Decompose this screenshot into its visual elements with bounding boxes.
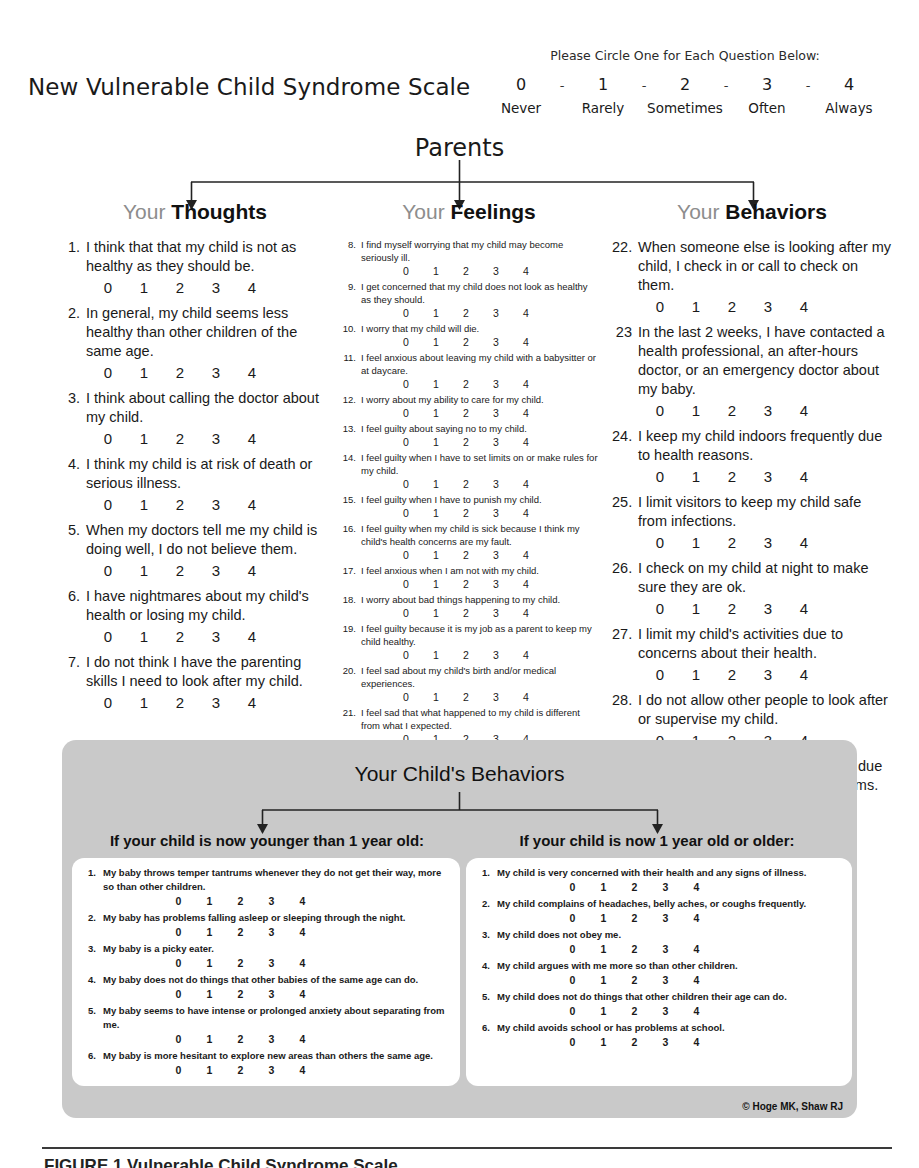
scale-option-2[interactable]: 2 [451, 691, 481, 703]
scale-option-0[interactable]: 0 [642, 600, 678, 617]
scale-option-0[interactable]: 0 [557, 1036, 588, 1048]
scale-option-2[interactable]: 2 [714, 666, 750, 683]
scale-option-4[interactable]: 4 [234, 496, 270, 513]
scale-option-0[interactable]: 0 [391, 407, 421, 419]
scale-option-4[interactable]: 4 [287, 1064, 318, 1076]
scale-option-1[interactable]: 1 [588, 1036, 619, 1048]
scale-option-0[interactable]: 0 [163, 957, 194, 969]
scale-option-0[interactable]: 0 [90, 562, 126, 579]
scale-option-4[interactable]: 4 [511, 549, 541, 561]
scale-option-4[interactable]: 4 [511, 578, 541, 590]
scale-option-3[interactable]: 3 [650, 1005, 681, 1017]
scale-option-4[interactable]: 4 [681, 912, 712, 924]
scale-option-1[interactable]: 1 [194, 926, 225, 938]
scale-option-3[interactable]: 3 [650, 1036, 681, 1048]
scale-option-0[interactable]: 0 [163, 988, 194, 1000]
scale-option-4[interactable]: 4 [511, 607, 541, 619]
scale-option-1[interactable]: 1 [194, 1033, 225, 1045]
scale-option-2[interactable]: 2 [619, 912, 650, 924]
scale-option-3[interactable]: 3 [750, 534, 786, 551]
scale-option-4[interactable]: 4 [511, 507, 541, 519]
scale-option-3[interactable]: 3 [481, 265, 511, 277]
scale-option-0[interactable]: 0 [391, 378, 421, 390]
scale-option-3[interactable]: 3 [750, 468, 786, 485]
scale-option-3[interactable]: 3 [256, 895, 287, 907]
scale-option-4[interactable]: 4 [234, 628, 270, 645]
scale-option-2[interactable]: 2 [451, 307, 481, 319]
scale-option-1[interactable]: 1 [421, 336, 451, 348]
scale-option-3[interactable]: 3 [198, 562, 234, 579]
scale-option-4[interactable]: 4 [511, 649, 541, 661]
scale-option-3[interactable]: 3 [481, 691, 511, 703]
scale-option-3[interactable]: 3 [198, 628, 234, 645]
scale-option-4[interactable]: 4 [511, 307, 541, 319]
scale-option-4[interactable]: 4 [681, 1036, 712, 1048]
scale-option-4[interactable]: 4 [786, 298, 822, 315]
scale-option-2[interactable]: 2 [451, 649, 481, 661]
scale-option-0[interactable]: 0 [391, 478, 421, 490]
scale-option-4[interactable]: 4 [511, 691, 541, 703]
scale-option-4[interactable]: 4 [287, 1033, 318, 1045]
scale-option-3[interactable]: 3 [256, 957, 287, 969]
scale-option-1[interactable]: 1 [194, 957, 225, 969]
scale-option-3[interactable]: 3 [750, 298, 786, 315]
scale-option-1[interactable]: 1 [421, 307, 451, 319]
scale-option-3[interactable]: 3 [481, 378, 511, 390]
scale-option-3[interactable]: 3 [650, 943, 681, 955]
scale-option-0[interactable]: 0 [90, 430, 126, 447]
scale-option-4[interactable]: 4 [681, 974, 712, 986]
scale-option-1[interactable]: 1 [421, 407, 451, 419]
scale-option-2[interactable]: 2 [619, 1036, 650, 1048]
scale-option-1[interactable]: 1 [421, 378, 451, 390]
scale-option-1[interactable]: 1 [126, 694, 162, 711]
scale-option-0[interactable]: 0 [90, 628, 126, 645]
scale-option-1[interactable]: 1 [678, 600, 714, 617]
scale-option-0[interactable]: 0 [163, 926, 194, 938]
scale-option-2[interactable]: 2 [619, 943, 650, 955]
scale-option-1[interactable]: 1 [126, 364, 162, 381]
scale-option-4[interactable]: 4 [287, 957, 318, 969]
scale-option-4[interactable]: 4 [234, 364, 270, 381]
scale-option-4[interactable]: 4 [234, 430, 270, 447]
scale-option-0[interactable]: 0 [642, 468, 678, 485]
scale-option-2[interactable]: 2 [714, 402, 750, 419]
scale-option-2[interactable]: 2 [162, 279, 198, 296]
scale-option-4[interactable]: 4 [511, 336, 541, 348]
scale-option-1[interactable]: 1 [126, 279, 162, 296]
scale-option-1[interactable]: 1 [421, 578, 451, 590]
scale-option-1[interactable]: 1 [678, 468, 714, 485]
scale-option-4[interactable]: 4 [234, 279, 270, 296]
scale-option-1[interactable]: 1 [588, 1005, 619, 1017]
scale-option-4[interactable]: 4 [786, 600, 822, 617]
scale-option-3[interactable]: 3 [481, 436, 511, 448]
scale-option-0[interactable]: 0 [391, 691, 421, 703]
scale-option-0[interactable]: 0 [642, 666, 678, 683]
scale-option-2[interactable]: 2 [451, 578, 481, 590]
scale-option-3[interactable]: 3 [256, 1064, 287, 1076]
scale-option-4[interactable]: 4 [786, 534, 822, 551]
scale-option-1[interactable]: 1 [588, 912, 619, 924]
scale-option-2[interactable]: 2 [714, 468, 750, 485]
scale-option-3[interactable]: 3 [256, 926, 287, 938]
scale-option-2[interactable]: 2 [714, 298, 750, 315]
scale-option-2[interactable]: 2 [619, 1005, 650, 1017]
scale-option-4[interactable]: 4 [287, 988, 318, 1000]
scale-option-3[interactable]: 3 [750, 402, 786, 419]
scale-option-4[interactable]: 4 [511, 478, 541, 490]
scale-option-3[interactable]: 3 [198, 694, 234, 711]
scale-option-1[interactable]: 1 [421, 478, 451, 490]
scale-option-3[interactable]: 3 [481, 336, 511, 348]
scale-option-1[interactable]: 1 [126, 562, 162, 579]
scale-option-1[interactable]: 1 [421, 265, 451, 277]
scale-option-3[interactable]: 3 [481, 407, 511, 419]
scale-option-3[interactable]: 3 [650, 974, 681, 986]
scale-option-1[interactable]: 1 [421, 436, 451, 448]
scale-option-2[interactable]: 2 [451, 436, 481, 448]
scale-option-0[interactable]: 0 [391, 336, 421, 348]
scale-option-0[interactable]: 0 [391, 507, 421, 519]
scale-option-0[interactable]: 0 [163, 1064, 194, 1076]
scale-option-2[interactable]: 2 [451, 507, 481, 519]
scale-option-2[interactable]: 2 [451, 378, 481, 390]
scale-option-1[interactable]: 1 [588, 974, 619, 986]
scale-option-3[interactable]: 3 [256, 1033, 287, 1045]
